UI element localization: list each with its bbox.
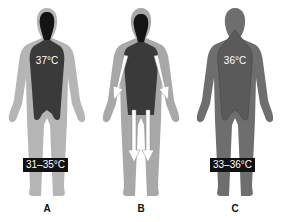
- core-temp-label-c: 36°C: [218, 55, 252, 67]
- figure-letter-b: B: [94, 203, 188, 214]
- figure-letter-a: A: [0, 203, 94, 214]
- shell-temp-label-a: 31–35°C: [23, 158, 68, 172]
- figure-c: 36°C 33–36°C C: [188, 0, 282, 222]
- body-silhouette-c: [188, 0, 282, 222]
- shell-temp-label-c: 33–36°C: [210, 158, 255, 172]
- body-silhouette-b: [94, 0, 188, 222]
- figure-a: 37°C 31–35°C A: [0, 0, 94, 222]
- figure-letter-c: C: [188, 203, 282, 214]
- core-temp-label-a: 37°C: [30, 55, 64, 67]
- body-silhouette-a: [0, 0, 94, 222]
- figure-b: B: [94, 0, 188, 222]
